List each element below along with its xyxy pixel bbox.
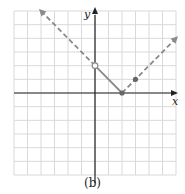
open-point-icon — [92, 63, 98, 69]
filled-point-icon — [119, 90, 124, 95]
x-axis-label: x — [172, 95, 179, 108]
graph: x y — [0, 0, 185, 194]
arrowhead-icon — [39, 9, 46, 16]
y-axis-label: y — [83, 8, 91, 21]
axes — [14, 7, 178, 183]
figure-caption: (b) — [0, 176, 185, 190]
arrowhead-icon — [171, 36, 178, 43]
filled-point-icon — [133, 77, 138, 82]
